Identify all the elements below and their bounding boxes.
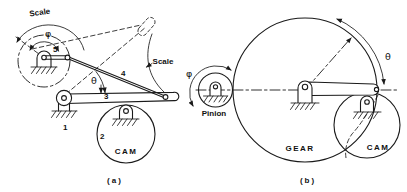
scale-right-label: Scale: [153, 57, 174, 66]
caption-b: (b): [300, 176, 316, 185]
phi-label-a: φ: [45, 28, 51, 39]
link-5-label: 5: [53, 45, 58, 54]
follower-arm: [66, 92, 179, 103]
lever-arm: [309, 82, 379, 96]
pinion-label: Pinion: [202, 109, 227, 118]
figure-canvas: Scale φ 5 4 θ 3 Scale 1 2 CAM (a): [0, 0, 407, 192]
link-4-label: 4: [121, 69, 126, 78]
pinion-pivot-support: [204, 82, 228, 102]
crank-pivot-support: [31, 51, 57, 74]
phi-label-b: φ: [186, 68, 192, 79]
raised-tip-outline: [138, 17, 155, 35]
theta-arc-a: [96, 72, 105, 93]
arm-tip-pin: [163, 95, 168, 100]
link-2-label: 2: [100, 132, 105, 141]
gear-label: GEAR: [285, 144, 314, 153]
cam-label-b: CAM: [367, 143, 390, 152]
link-1-label: 1: [63, 123, 68, 132]
panel-b: φ Pinion GEAR CAM θ (b): [186, 18, 400, 185]
link-3-label: 3: [104, 92, 109, 101]
cam-pivot-support-a: [113, 105, 140, 126]
link-4-bar: [67, 56, 166, 98]
scale-top-label: Scale: [29, 7, 52, 19]
lever-tip-pin: [374, 87, 378, 91]
theta-arc-b: [337, 19, 384, 84]
cam-linkage-figure: Scale φ 5 4 θ 3 Scale 1 2 CAM (a): [0, 0, 407, 192]
theta-label-a: θ: [91, 75, 97, 86]
panel-a: Scale φ 5 4 θ 3 Scale 1 2 CAM (a): [16, 7, 179, 185]
caption-a: (a): [107, 176, 123, 185]
theta-label-b: θ: [385, 51, 391, 62]
cam-label-a: CAM: [115, 147, 138, 156]
